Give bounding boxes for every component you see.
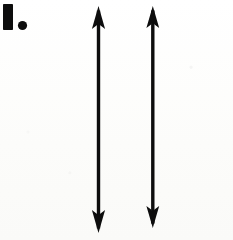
left-arrow-shaft	[97, 11, 100, 229]
arrows-drawing	[0, 0, 233, 240]
right-arrow	[146, 6, 159, 228]
right-arrow-shaft	[151, 10, 154, 223]
left-arrow	[92, 6, 105, 233]
figure-container: I.	[0, 0, 233, 240]
